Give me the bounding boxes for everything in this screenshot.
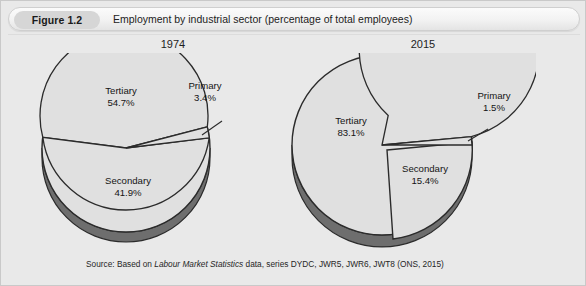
figure-plot-area: 1974 Tertiary 54.7% Secondary bbox=[8, 34, 580, 280]
slice-name-tertiary-2015: Tertiary bbox=[335, 115, 366, 126]
slice-value-tertiary-1974: 54.7% bbox=[107, 97, 134, 108]
source-suffix: data, series DYDC, JWR5, JWR6, JWT8 (ONS… bbox=[243, 259, 444, 269]
slice-name-primary-2015: Primary bbox=[477, 90, 510, 101]
slice-label-secondary-2015: Secondary 15.4% bbox=[386, 163, 464, 186]
slice-name-secondary-2015: Secondary bbox=[402, 163, 448, 174]
slice-value-tertiary-2015: 83.1% bbox=[337, 127, 364, 138]
slice-label-secondary-1974: Secondary 41.9% bbox=[88, 175, 168, 198]
figure-container: Figure 1.2 Employment by industrial sect… bbox=[0, 0, 586, 286]
chart-year-label-1974: 1974 bbox=[26, 38, 308, 50]
figure-title: Employment by industrial sector (percent… bbox=[113, 8, 412, 30]
slice-label-tertiary-1974: Tertiary 54.7% bbox=[84, 85, 158, 108]
pie-svg-1974 bbox=[26, 53, 276, 243]
slice-name-secondary-1974: Secondary bbox=[105, 175, 151, 186]
slice-label-primary-2015: Primary 1.5% bbox=[464, 90, 524, 113]
slice-label-primary-1974: Primary 3.4% bbox=[174, 80, 236, 103]
slice-value-primary-1974: 3.4% bbox=[194, 92, 216, 103]
pie-svg-2015 bbox=[286, 53, 536, 253]
source-publication: Labour Market Statistics bbox=[154, 259, 243, 269]
slice-name-primary-1974: Primary bbox=[188, 80, 221, 91]
slice-value-primary-2015: 1.5% bbox=[483, 102, 505, 113]
slice-name-tertiary-1974: Tertiary bbox=[105, 85, 136, 96]
slice-label-tertiary-2015: Tertiary 83.1% bbox=[316, 115, 386, 138]
figure-number-label: Figure 1.2 bbox=[32, 14, 83, 26]
slice-value-secondary-2015: 15.4% bbox=[411, 175, 438, 186]
slice-value-secondary-1974: 41.9% bbox=[114, 187, 141, 198]
pie-chart-1974: 1974 Tertiary 54.7% Secondary bbox=[26, 35, 296, 245]
figure-header-bar: Figure 1.2 Employment by industrial sect… bbox=[8, 7, 580, 31]
source-prefix: Source: Based on bbox=[86, 259, 154, 269]
chart-year-label-2015: 2015 bbox=[286, 38, 558, 50]
figure-number-badge: Figure 1.2 bbox=[14, 11, 100, 29]
source-note: Source: Based on Labour Market Statistic… bbox=[86, 259, 444, 269]
pie-slice-secondary-2015[interactable] bbox=[387, 142, 472, 239]
pie-chart-2015: 2015 Tertiary 83.1% Secondary 15 bbox=[286, 35, 556, 245]
